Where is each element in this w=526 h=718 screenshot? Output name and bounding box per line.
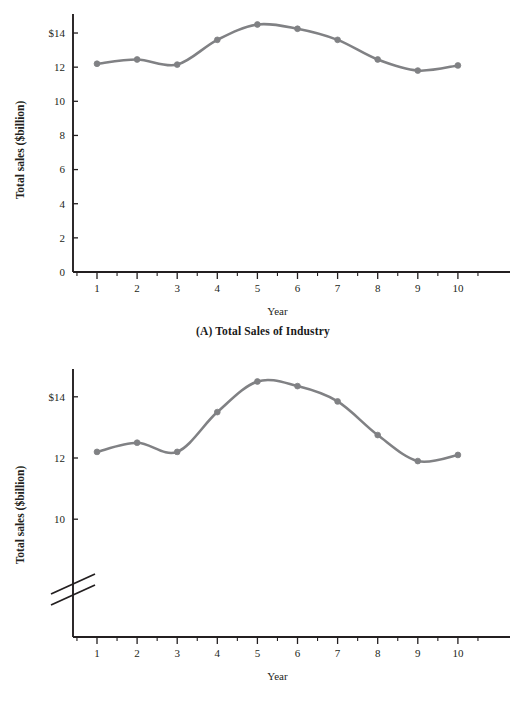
chart-panel-a: 024681012$1412345678910Year 1: $12.2 bil…	[0, 0, 526, 355]
data-point-marker: Year 10: $12.1 billion	[455, 63, 461, 69]
x-tick-label: 1	[94, 647, 100, 659]
y-tick-label: $14	[49, 391, 66, 403]
x-tick-label: 3	[174, 282, 180, 294]
data-point-marker: Year 5: $14.5 billion	[255, 22, 261, 28]
data-point-markers: Year 1: $12.2 billionYear 2: $12.45 bill…	[94, 22, 461, 74]
data-line-total-sales	[97, 380, 458, 462]
data-point-marker: Year 3: $12.15 billion	[174, 62, 180, 68]
x-axis-ticks: 12345678910	[77, 637, 478, 659]
data-point-marker: Year 4: $13.6 billion	[214, 37, 220, 43]
y-tick-label: 12	[54, 61, 65, 73]
y-tick-label: 2	[60, 232, 66, 244]
data-point-marker: Year 7: $13.6 billion	[335, 37, 341, 43]
x-tick-label: 6	[295, 282, 301, 294]
x-tick-label: 3	[174, 647, 180, 659]
data-point-marker: Year 9: $11.9 billion	[415, 458, 421, 464]
y-tick-label: 6	[60, 163, 66, 175]
data-point-markers: Year 1: $12.2 billionYear 2: $12.5 billi…	[94, 379, 461, 464]
line-chart-b: 1012$1412345678910Year 1: $12.2 billionY…	[0, 355, 526, 690]
x-tick-label: 1	[94, 282, 100, 294]
x-tick-label: 9	[415, 282, 421, 294]
data-point-marker: Year 6: $14.35 billion	[295, 383, 301, 389]
x-tick-label: 5	[255, 282, 261, 294]
chart-caption-a: (A) Total Sales of Industry	[0, 325, 526, 337]
x-tick-label: 4	[215, 647, 221, 659]
x-axis-ticks: 12345678910	[77, 272, 478, 294]
x-tick-label: 8	[375, 647, 381, 659]
data-line-total-sales	[97, 24, 458, 71]
data-point-marker: Year 2: $12.5 billion	[134, 440, 140, 446]
x-tick-label: 9	[415, 647, 421, 659]
x-tick-label: 4	[215, 282, 221, 294]
y-tick-label: 10	[54, 513, 66, 525]
data-point-marker: Year 6: $14.25 billion	[295, 26, 301, 32]
x-axis-title: Year	[267, 670, 288, 682]
y-tick-label: $14	[49, 27, 66, 39]
x-tick-label: 10	[452, 282, 464, 294]
x-tick-label: 2	[134, 647, 140, 659]
x-tick-label: 10	[452, 647, 464, 659]
y-axis-title: Total sales ($billion)	[14, 101, 27, 200]
x-tick-label: 7	[335, 647, 341, 659]
y-tick-label: 0	[60, 266, 66, 278]
figure-page: 024681012$1412345678910Year 1: $12.2 bil…	[0, 0, 526, 718]
y-tick-label: 4	[60, 198, 66, 210]
data-point-marker: Year 10: $12.1 billion	[455, 452, 461, 458]
data-point-marker: Year 5: $14.5 billion	[255, 379, 261, 385]
y-axis-title: Total sales ($billion)	[14, 466, 27, 565]
data-point-marker: Year 2: $12.45 billion	[134, 57, 140, 63]
x-tick-label: 2	[134, 282, 140, 294]
x-axis-title: Year	[267, 305, 288, 317]
chart-panel-b: 1012$1412345678910Year 1: $12.2 billionY…	[0, 355, 526, 718]
line-chart-a: 024681012$1412345678910Year 1: $12.2 bil…	[0, 0, 526, 325]
x-tick-label: 5	[255, 647, 261, 659]
data-point-marker: Year 7: $13.85 billion	[335, 398, 341, 404]
data-point-marker: Year 9: $11.8 billion	[415, 68, 421, 74]
y-tick-label: 10	[54, 95, 66, 107]
data-point-marker: Year 1: $12.2 billion	[94, 449, 100, 455]
x-tick-label: 8	[375, 282, 381, 294]
x-tick-label: 7	[335, 282, 341, 294]
data-point-marker: Year 3: $12.2 billion	[174, 449, 180, 455]
data-point-marker: Year 8: $12.75 billion	[375, 432, 381, 438]
data-point-marker: Year 1: $12.2 billion	[94, 61, 100, 67]
y-tick-label: 8	[60, 129, 66, 141]
x-tick-label: 6	[295, 647, 301, 659]
y-tick-label: 12	[54, 452, 65, 464]
data-point-marker: Year 4: $13.5 billion	[214, 409, 220, 415]
data-point-marker: Year 8: $12.45 billion	[375, 57, 381, 63]
